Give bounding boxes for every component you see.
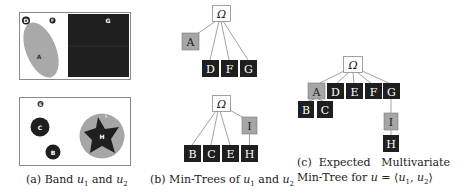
svg-text:I: I [247, 120, 251, 133]
svg-text:D: D [206, 63, 215, 76]
region-b-label: B [51, 149, 56, 156]
svg-text:H: H [245, 148, 255, 161]
band-u1-image: G A D F [16, 13, 130, 83]
tree-u2-node-i: I [242, 117, 257, 134]
tree-u1-node-a: A [182, 33, 199, 50]
tree-u2-node-b: B [184, 145, 201, 162]
tree-c-root: Ω [344, 57, 363, 73]
tree-c-node-f: F [365, 83, 382, 99]
region-c-label: C [38, 124, 43, 131]
tree-u2-node-c: C [203, 145, 220, 162]
region-g [68, 14, 129, 77]
svg-text:A: A [186, 36, 196, 49]
svg-text:Ω: Ω [347, 59, 357, 72]
min-tree-u1 [197, 21, 248, 60]
svg-text:C: C [321, 104, 329, 117]
svg-text:B: B [302, 104, 310, 117]
region-f-label: F [51, 18, 54, 23]
svg-text:G: G [387, 86, 396, 99]
tree-u2-root: Ω [213, 96, 231, 112]
svg-text:Ω: Ω [216, 8, 226, 21]
region-e-label: E [39, 102, 42, 107]
svg-text:B: B [188, 148, 196, 161]
tree-c-node-i: I [384, 113, 398, 130]
svg-text:H: H [386, 138, 396, 151]
tree-c-node-e: E [346, 83, 363, 99]
svg-text:I: I [389, 116, 393, 129]
tree-c-node-h: H [383, 135, 399, 152]
caption-c-line1: (c) Expected Multivariate [297, 155, 450, 170]
svg-text:A: A [312, 86, 322, 99]
svg-text:E: E [226, 148, 234, 161]
region-d-label: D [24, 17, 29, 24]
min-tree-u2 [192, 108, 250, 145]
caption-b: (b) Min-Trees of u1 and u2 [150, 173, 294, 188]
caption-c-line2: Min-Tree for u = ⟨u1, u2⟩ [297, 170, 450, 190]
tree-u2-node-h: H [241, 145, 258, 162]
svg-text:F: F [226, 63, 234, 76]
band-u2-image: E C B I H [20, 98, 131, 166]
svg-text:D: D [331, 86, 340, 99]
region-a-label: A [37, 53, 42, 60]
svg-text:G: G [244, 63, 253, 76]
tree-u1-node-f: F [221, 60, 238, 77]
region-h-label: H [99, 133, 104, 140]
svg-text:C: C [207, 148, 215, 161]
tree-u2-node-e: E [222, 145, 239, 162]
tree-c-node-b: B [298, 101, 314, 118]
region-g-label: G [106, 17, 111, 24]
tree-c-node-g: G [383, 83, 400, 99]
caption-a: (a) Band u1 and u2 [26, 173, 128, 188]
tree-c-node-a: A [308, 83, 325, 99]
tree-c-node-d: D [327, 83, 344, 99]
svg-text:F: F [370, 86, 378, 99]
svg-text:E: E [350, 86, 358, 99]
caption-c: (c) Expected Multivariate Min-Tree for u… [297, 155, 450, 190]
tree-c-node-c: C [317, 101, 333, 118]
tree-u1-node-g: G [240, 60, 257, 77]
tree-u1-root: Ω [213, 6, 231, 22]
tree-u1-node-d: D [202, 60, 219, 77]
svg-text:Ω: Ω [216, 98, 226, 111]
